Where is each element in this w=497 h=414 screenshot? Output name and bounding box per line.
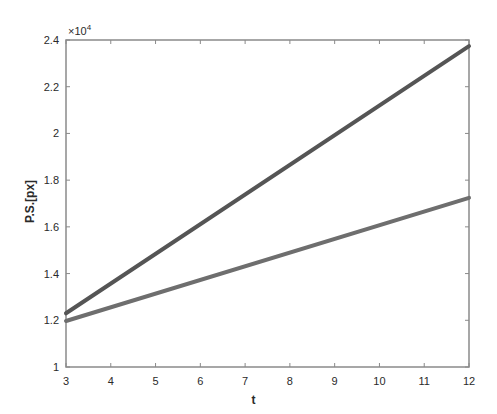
y-tick-label: 2.4 bbox=[44, 34, 59, 46]
x-tick-label: 4 bbox=[108, 375, 114, 387]
plot-area bbox=[66, 40, 469, 367]
y-tick-label: 1.6 bbox=[44, 221, 59, 233]
y-tick-label: 2 bbox=[53, 127, 59, 139]
x-tick-label: 5 bbox=[152, 375, 158, 387]
y-tick-label: 1 bbox=[53, 361, 59, 373]
plot-frame bbox=[66, 40, 469, 367]
x-tick-label: 9 bbox=[332, 375, 338, 387]
y-axis-exponent: ×104 bbox=[68, 23, 92, 37]
y-axis-label: P.S.[px] bbox=[23, 180, 37, 223]
y-tick-label: 1.2 bbox=[44, 314, 59, 326]
y-tick-label: 1.8 bbox=[44, 174, 59, 186]
x-tick-label: 6 bbox=[197, 375, 203, 387]
x-tick-label: 7 bbox=[242, 375, 248, 387]
x-tick-label: 12 bbox=[463, 375, 475, 387]
x-tick-label: 10 bbox=[373, 375, 385, 387]
y-tick-label: 1.4 bbox=[44, 268, 59, 280]
line-chart: 3456789101112 11.21.41.61.822.22.4 t P.S… bbox=[0, 0, 497, 414]
x-tick-label: 11 bbox=[419, 375, 430, 387]
x-tick-label: 8 bbox=[287, 375, 293, 387]
x-axis-label: t bbox=[252, 393, 256, 407]
y-tick-label: 2.2 bbox=[44, 81, 59, 93]
exponent-power: 4 bbox=[87, 23, 92, 32]
exponent-base: ×10 bbox=[68, 25, 87, 37]
x-tick-label: 3 bbox=[63, 375, 69, 387]
